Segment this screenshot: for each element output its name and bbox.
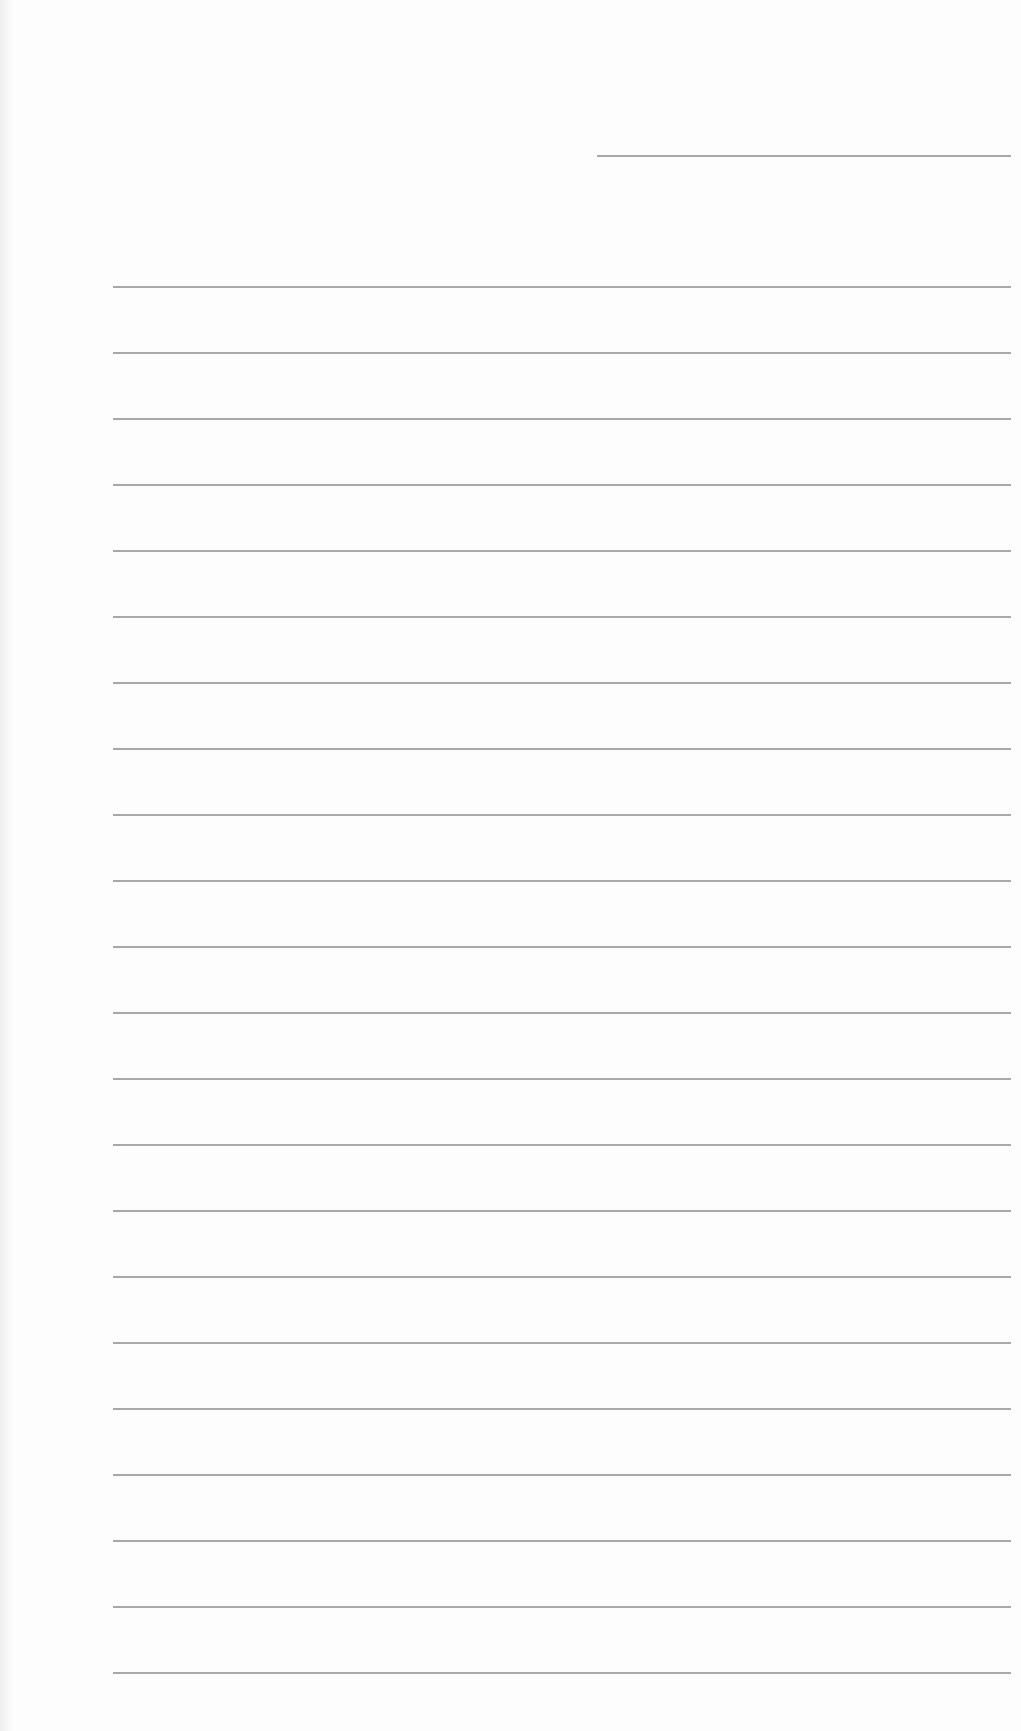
ruled-line	[113, 946, 1011, 948]
ruled-line	[113, 352, 1011, 354]
ruled-line	[113, 748, 1011, 750]
ruled-line	[113, 1342, 1011, 1344]
ruled-line	[113, 1408, 1011, 1410]
ruled-line	[113, 814, 1011, 816]
ruled-line	[113, 286, 1011, 288]
header-line	[597, 155, 1011, 157]
ruled-line	[113, 682, 1011, 684]
paper-edge-shadow	[0, 0, 14, 1731]
ruled-line	[113, 1012, 1011, 1014]
ruled-line	[113, 550, 1011, 552]
ruled-line	[113, 484, 1011, 486]
ruled-line	[113, 880, 1011, 882]
ruled-line	[113, 1210, 1011, 1212]
ruled-line	[113, 1276, 1011, 1278]
ruled-line	[113, 1606, 1011, 1608]
ruled-line	[113, 1474, 1011, 1476]
ruled-line	[113, 616, 1011, 618]
ruled-line	[113, 418, 1011, 420]
ruled-line	[113, 1672, 1011, 1674]
ruled-line	[113, 1540, 1011, 1542]
ruled-line	[113, 1078, 1011, 1080]
ruled-line	[113, 1144, 1011, 1146]
